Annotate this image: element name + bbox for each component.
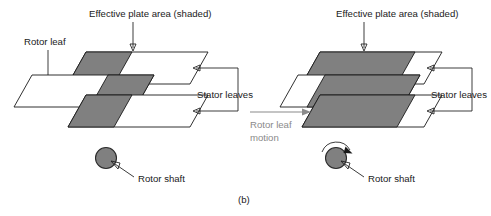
right-diagram: Effective plate area (shaded)	[250, 8, 487, 184]
left-rotor-leaf-label: Rotor leaf	[24, 36, 66, 47]
left-rotor-shaft-circle	[96, 148, 117, 169]
left-rotor-shaft-label: Rotor shaft	[138, 173, 185, 184]
right-effective-plate-area-leader	[361, 22, 367, 51]
right-stator-leaves-label: Stator leaves	[431, 89, 487, 100]
right-plate-stator-bottom	[302, 95, 442, 127]
left-plate-stator-bottom	[68, 95, 208, 127]
right-rotor-leaf-motion-arrow	[250, 109, 311, 116]
figure-caption: (b)	[238, 194, 250, 205]
right-rotor-leaf-motion-label-line2: motion	[250, 132, 279, 143]
right-effective-plate-area-label: Effective plate area (shaded)	[336, 8, 458, 19]
left-diagram: Effective plate area (shaded) Rotor leaf	[14, 8, 253, 184]
left-effective-plate-area-leader	[130, 22, 136, 51]
right-rotor-shaft-label: Rotor shaft	[368, 173, 415, 184]
figure-container: Effective plate area (shaded) Rotor leaf	[0, 0, 491, 216]
left-stator-leaves-label: Stator leaves	[197, 89, 253, 100]
right-rotor-shaft-circle	[326, 148, 347, 169]
right-rotor-leaf-motion-label-line1: Rotor leaf	[250, 119, 292, 130]
capacitor-plate-diagram: Effective plate area (shaded) Rotor leaf	[0, 0, 491, 216]
left-effective-plate-area-label: Effective plate area (shaded)	[89, 8, 211, 19]
